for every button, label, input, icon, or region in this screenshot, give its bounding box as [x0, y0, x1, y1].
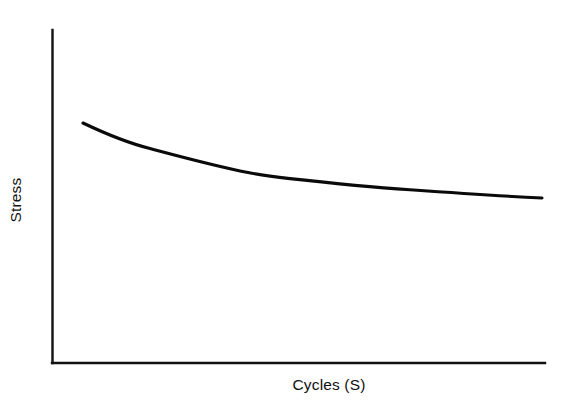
x-axis-label: Cycles (S) [229, 377, 429, 393]
plot-canvas [0, 0, 570, 403]
y-axis-label: Stress [8, 168, 24, 232]
plot-background [0, 0, 570, 403]
chart-figure: Stress Cycles (S) [0, 0, 570, 403]
